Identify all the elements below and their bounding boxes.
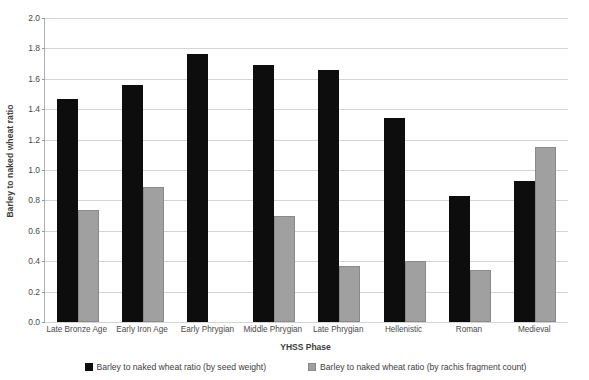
x-axis-tick-label: Early Phrygian (175, 325, 240, 334)
bar-group-bars (187, 18, 229, 322)
bar-group-bars (449, 18, 491, 322)
x-axis-tick-label: Middle Phrygian (240, 325, 305, 334)
legend-item[interactable]: Barley to naked wheat ratio (by seed wei… (85, 362, 267, 372)
bar-seed (57, 99, 78, 322)
legend-label: Barley to naked wheat ratio (by rachis f… (320, 362, 526, 372)
y-axis-tick-label: 1.4 (28, 104, 40, 114)
bar-seed (122, 85, 143, 322)
bar-group (45, 18, 110, 322)
x-axis-tick-label: Hellenistic (371, 325, 436, 334)
x-axis-title: YHSS Phase (44, 342, 567, 352)
bar-group-bars (384, 18, 426, 322)
gridline (45, 322, 568, 323)
y-axis-title: Barley to naked wheat ratio (2, 0, 18, 322)
bar-group-bars (57, 18, 99, 322)
y-axis-tick-mark (42, 322, 45, 323)
y-axis-tick-label: 2.0 (28, 13, 40, 23)
bar-group (176, 18, 241, 322)
bar-rachis (405, 261, 426, 322)
bar-group (437, 18, 502, 322)
x-axis-tick-label: Late Bronze Age (44, 325, 109, 334)
y-axis-tick-label: 0.8 (28, 195, 40, 205)
y-axis-tick-label: 0.0 (28, 317, 40, 327)
y-axis-tick-label: 1.0 (28, 165, 40, 175)
bar-group-bars (318, 18, 360, 322)
x-axis-tick-label: Medieval (502, 325, 567, 334)
legend-swatch-icon (308, 363, 316, 371)
bar-seed (514, 181, 535, 322)
y-axis-title-text: Barley to naked wheat ratio (5, 104, 15, 217)
bar-rachis (274, 216, 295, 322)
bar-group-bars (514, 18, 556, 322)
legend-swatch-icon (85, 363, 93, 371)
y-axis-tick-label: 1.6 (28, 74, 40, 84)
bar-group (307, 18, 372, 322)
y-axis-tick-label: 0.6 (28, 226, 40, 236)
legend-label: Barley to naked wheat ratio (by seed wei… (97, 362, 267, 372)
bar-rachis (143, 187, 164, 322)
x-axis-tick-label: Late Phrygian (306, 325, 371, 334)
bar-seed (187, 54, 208, 322)
bar-group (503, 18, 568, 322)
bar-seed (449, 196, 470, 322)
y-axis-tick-label: 0.2 (28, 287, 40, 297)
plot-area: 0.00.20.40.60.81.01.21.41.61.82.0 (44, 18, 568, 323)
bar-group (110, 18, 175, 322)
bar-seed (253, 65, 274, 322)
bar-group-bars (122, 18, 164, 322)
bar-chart: Barley to naked wheat ratio 0.00.20.40.6… (0, 0, 589, 380)
bar-rachis (339, 266, 360, 322)
y-axis-tick-label: 0.4 (28, 256, 40, 266)
bar-seed (384, 118, 405, 322)
bar-groups (45, 18, 568, 322)
legend-item[interactable]: Barley to naked wheat ratio (by rachis f… (308, 362, 526, 372)
bar-rachis (535, 147, 556, 322)
bar-rachis (470, 270, 491, 322)
bar-rachis (78, 210, 99, 322)
bar-group-bars (253, 18, 295, 322)
x-axis-tick-label: Roman (436, 325, 501, 334)
bar-group (241, 18, 306, 322)
y-axis-tick-label: 1.2 (28, 135, 40, 145)
y-axis-tick-label: 1.8 (28, 43, 40, 53)
chart-legend: Barley to naked wheat ratio (by seed wei… (44, 362, 567, 372)
x-axis-tick-label: Early Iron Age (109, 325, 174, 334)
x-axis-tick-labels: Late Bronze AgeEarly Iron AgeEarly Phryg… (44, 325, 567, 334)
bar-seed (318, 70, 339, 322)
bar-group (372, 18, 437, 322)
